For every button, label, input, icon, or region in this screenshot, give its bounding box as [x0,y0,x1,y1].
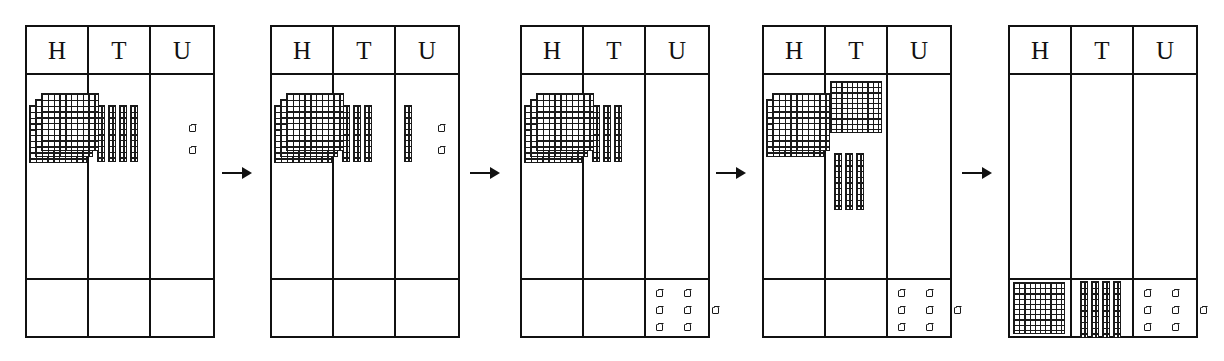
unit-cube [898,290,905,297]
step-arrow-icon [962,166,992,180]
unit-cube [898,307,905,314]
ten-rod [856,153,864,210]
answer-cell-h[interactable] [1010,280,1072,336]
panel-4: HTU [762,25,952,338]
work-row [1010,75,1196,278]
arrow-head [982,167,992,179]
work-cell-t[interactable] [1072,75,1134,278]
step-arrow-icon [222,166,252,180]
answer-cell-t[interactable] [1072,280,1134,336]
answer-cell-u[interactable] [646,280,708,336]
work-row [522,75,708,278]
answer-cell-u[interactable] [396,280,458,336]
answer-row [1010,278,1196,336]
answer-cell-h[interactable] [764,280,826,336]
ten-rod [353,105,361,162]
work-row [272,75,458,278]
ten-rod [603,105,611,162]
answer-cell-u[interactable] [151,280,213,336]
answer-cell-h[interactable] [272,280,334,336]
hundred-flat [41,93,99,151]
ten-rod [1080,281,1088,338]
unit-cube [926,324,933,331]
header-cell-t: T [1072,27,1134,73]
answer-row [27,278,213,336]
answer-cell-u[interactable] [888,280,950,336]
header-cell-t: T [584,27,646,73]
column-header-letter: H [272,38,332,63]
answer-row [522,278,708,336]
column-header-row: HTU [272,27,458,75]
header-cell-t: T [89,27,151,73]
work-row [764,75,950,278]
answer-cell-t[interactable] [89,280,151,336]
ten-rod [119,105,127,162]
work-cell-u[interactable] [646,75,708,278]
work-cell-u[interactable] [888,75,950,278]
work-cell-u[interactable] [151,75,213,278]
work-cell-u[interactable] [396,75,458,278]
answer-cell-u[interactable] [1134,280,1196,336]
hundred-flat [830,81,882,133]
unit-cube [712,307,719,314]
header-cell-h: H [1010,27,1072,73]
header-cell-t: T [826,27,888,73]
column-header-letter: U [396,38,458,63]
work-row [27,75,213,278]
work-cell-u[interactable] [1134,75,1196,278]
unit-cube [1200,307,1207,314]
column-header-letter: T [334,38,394,63]
unit-cube [438,125,445,132]
column-header-letter: U [888,38,950,63]
header-cell-t: T [334,27,396,73]
work-cell-t[interactable] [826,75,888,278]
unit-cube [954,307,961,314]
answer-cell-t[interactable] [584,280,646,336]
unit-cube [189,125,196,132]
answer-cell-t[interactable] [826,280,888,336]
column-header-row: HTU [764,27,950,75]
ten-rod [614,105,622,162]
ten-rod [130,105,138,162]
header-cell-h: H [272,27,334,73]
unit-cube [656,290,663,297]
header-cell-h: H [764,27,826,73]
answer-cell-h[interactable] [27,280,89,336]
unit-cube [189,147,196,154]
arrow-head [242,167,252,179]
column-header-letter: H [764,38,824,63]
column-header-letter: T [1072,38,1132,63]
hundred-flat [1013,282,1065,334]
unit-cube [438,147,445,154]
ten-rod [845,153,853,210]
column-header-letter: U [1134,38,1196,63]
answer-cell-h[interactable] [522,280,584,336]
answer-row [272,278,458,336]
ten-rod [364,105,372,162]
unit-cube [1144,307,1151,314]
column-header-letter: T [584,38,644,63]
hundred-flat [286,93,344,151]
unit-cube [656,324,663,331]
work-cell-h[interactable] [27,75,89,278]
column-header-letter: U [151,38,213,63]
answer-cell-t[interactable] [334,280,396,336]
unit-cube [684,307,691,314]
column-header-letter: U [646,38,708,63]
unit-cube [656,307,663,314]
work-cell-h[interactable] [522,75,584,278]
unit-cube [926,307,933,314]
unit-cube [1144,324,1151,331]
unit-cube [898,324,905,331]
work-cell-h[interactable] [764,75,826,278]
work-cell-h[interactable] [1010,75,1072,278]
work-cell-h[interactable] [272,75,334,278]
arrow-head [736,167,746,179]
unit-cube [1172,290,1179,297]
place-value-diagram: HTUHTUHTUHTUHTU [0,0,1224,361]
ten-rod [108,105,116,162]
column-header-letter: H [522,38,582,63]
ten-rod [834,153,842,210]
hundred-flat [772,93,830,151]
unit-cube [926,290,933,297]
